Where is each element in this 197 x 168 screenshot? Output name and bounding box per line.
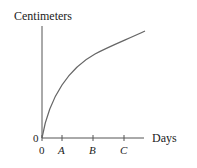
y-origin-label: 0 <box>33 133 39 144</box>
tick-b-label: B <box>89 145 96 156</box>
tick-c-label: C <box>120 145 127 156</box>
x-origin-label: 0 <box>39 145 45 156</box>
y-axis-label: Centimeters <box>14 10 72 22</box>
growth-curve <box>42 31 145 138</box>
tick-a-label: A <box>58 145 65 156</box>
x-axis-label: Days <box>152 132 177 144</box>
